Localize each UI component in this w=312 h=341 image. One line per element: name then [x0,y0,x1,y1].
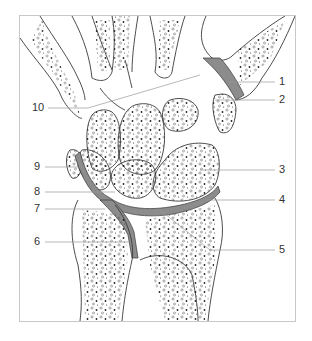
label-3: 3 [279,164,285,175]
wrist-illustration [0,0,312,341]
metacarpal-5 [20,16,85,118]
wrist-diagram: 1 2 3 4 5 6 7 8 9 10 [0,0,312,341]
label-2: 2 [279,94,285,105]
metacarpal-4 [72,16,114,80]
ulna [72,200,133,321]
label-6: 6 [34,236,40,247]
radius [140,198,222,321]
label-1: 1 [279,76,285,87]
label-9: 9 [34,161,40,172]
label-7: 7 [34,203,40,214]
label-5: 5 [279,244,285,255]
lunate [111,160,156,199]
trapezoid [163,98,199,131]
label-4: 4 [279,194,285,205]
label-10: 10 [32,102,44,113]
metacarpal-2 [125,16,185,88]
label-8: 8 [34,186,40,197]
